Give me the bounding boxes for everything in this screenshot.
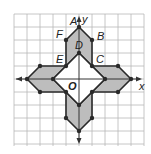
vertex-dot (77, 25, 81, 29)
vertex-dot (64, 116, 68, 120)
vertex-dot (38, 64, 42, 68)
vertex-dot (38, 90, 42, 94)
point-label-d: D (75, 39, 83, 51)
coordinate-plane: ABCDEFxyO (0, 0, 151, 154)
vertex-dot (116, 64, 120, 68)
point-label-e: E (56, 53, 64, 65)
vertex-dot (77, 129, 81, 133)
vertex-dot (103, 77, 107, 81)
coordinate-figure: ABCDEFxyO (0, 0, 151, 154)
x-axis-arrow-left-icon (16, 77, 22, 82)
vertex-dot (129, 77, 133, 81)
vertex-dot (90, 116, 94, 120)
x-axis-label: x (138, 80, 145, 92)
vertex-dot (77, 103, 81, 107)
y-axis-label: y (81, 13, 89, 25)
vertex-dot (90, 64, 94, 68)
vertex-dot (64, 64, 68, 68)
vertex-dot (90, 38, 94, 42)
point-label-b: B (97, 30, 104, 42)
y-axis-arrow-down-icon (77, 138, 82, 144)
point-label-f: F (56, 28, 64, 40)
vertex-dot (64, 38, 68, 42)
vertex-dot (77, 51, 81, 55)
vertex-dot (25, 77, 29, 81)
origin-label: O (68, 80, 77, 92)
vertex-dot (51, 77, 55, 81)
point-label-c: C (96, 53, 104, 65)
vertex-dot (116, 90, 120, 94)
vertex-dot (90, 90, 94, 94)
point-label-a: A (69, 15, 77, 27)
